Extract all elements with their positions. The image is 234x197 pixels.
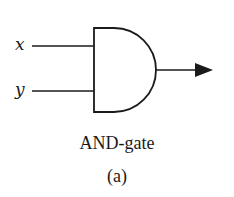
and-gate-diagram: x y AND-gate (a) [0, 0, 234, 197]
input-y-label: y [15, 81, 25, 98]
input-x-label: x [15, 36, 25, 53]
output-arrow-icon [195, 63, 213, 77]
and-gate-body [94, 28, 156, 112]
figure-sublabel: (a) [0, 167, 234, 185]
gate-caption: AND-gate [0, 134, 234, 152]
